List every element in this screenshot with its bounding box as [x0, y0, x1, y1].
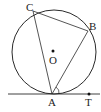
- segment-ab: [52, 31, 88, 94]
- label-o: O: [49, 54, 57, 66]
- label-c: C: [26, 1, 33, 13]
- segment-cb: [33, 11, 88, 31]
- geometry-diagram: C B O A T: [0, 0, 101, 112]
- label-a: A: [48, 96, 56, 108]
- angle-mark-bat: [56, 87, 59, 94]
- segment-ca: [33, 11, 52, 94]
- label-t: T: [85, 96, 92, 108]
- point-o-dot: [52, 50, 55, 53]
- label-b: B: [89, 20, 96, 32]
